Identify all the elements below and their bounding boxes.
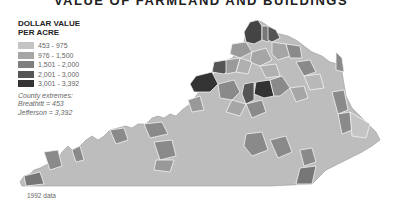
legend-swatch: [18, 52, 34, 59]
legend-label: 453 - 975: [38, 42, 68, 49]
legend-swatch: [18, 80, 34, 87]
county-extremes: County extremes: Breathitt = 453 Jeffers…: [18, 92, 80, 118]
extreme-high: Jefferson = 3,392: [18, 109, 80, 118]
legend-item: 2,001 - 3,000: [18, 70, 80, 80]
legend-item: 976 - 1,500: [18, 51, 80, 61]
legend-item: 3,001 - 3,392: [18, 79, 80, 89]
legend-label: 976 - 1,500: [38, 52, 73, 59]
legend-item: 453 - 975: [18, 41, 80, 51]
legend-list: 453 - 975 976 - 1,500 1,501 - 2,000 2,00…: [18, 41, 80, 89]
legend-item: 1,501 - 2,000: [18, 60, 80, 70]
legend-heading-1: DOLLAR VALUE: [18, 19, 80, 28]
data-year-note: 1992 data: [27, 192, 56, 199]
legend-label: 3,001 - 3,392: [38, 80, 79, 87]
legend-heading-2: PER ACRE: [18, 28, 80, 37]
legend-label: 1,501 - 2,000: [38, 61, 79, 68]
legend-label: 2,001 - 3,000: [38, 71, 79, 78]
extremes-heading: County extremes:: [18, 92, 80, 101]
extreme-low: Breathitt = 453: [18, 100, 80, 109]
legend-swatch: [18, 42, 34, 49]
legend: DOLLAR VALUE PER ACRE 453 - 975 976 - 1,…: [18, 19, 80, 117]
legend-swatch: [18, 61, 34, 68]
legend-swatch: [18, 71, 34, 78]
